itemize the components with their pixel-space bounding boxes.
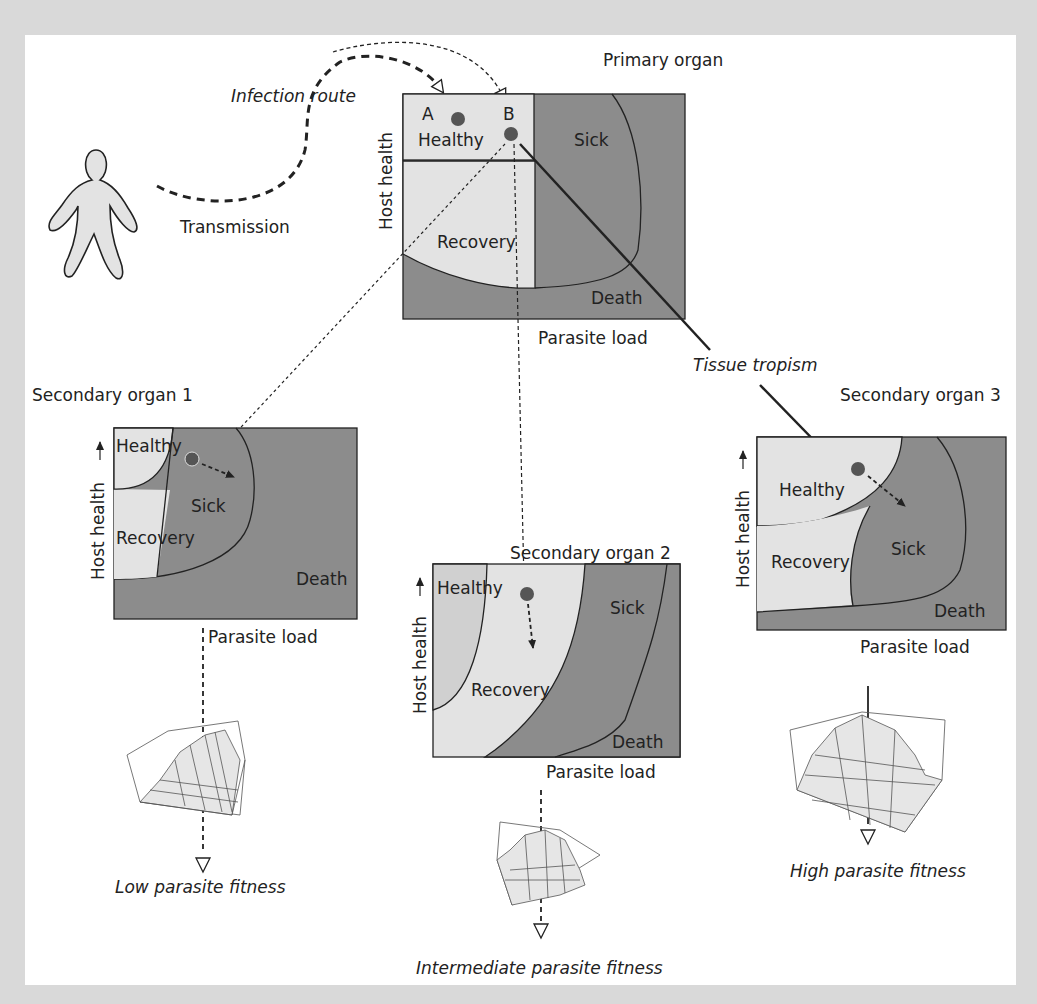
primary-region-healthy: Healthy	[418, 130, 484, 150]
infection-route-label: Infection route	[231, 86, 356, 106]
down-arrow-3	[861, 830, 875, 844]
person-icon	[49, 150, 137, 279]
down-arrow-2	[534, 924, 548, 938]
s2-region-death: Death	[612, 732, 663, 752]
s1-outcome-label: Low parasite fitness	[115, 877, 286, 897]
tissue-tropism-label: Tissue tropism	[693, 355, 817, 375]
primary-region-sick: Sick	[574, 130, 609, 150]
s2-region-recovery: Recovery	[471, 680, 550, 700]
secondary-organ-3-title: Secondary organ 3	[840, 385, 1001, 405]
s2-region-healthy: Healthy	[437, 578, 503, 598]
s3-outcome-label: High parasite fitness	[790, 861, 966, 881]
primary-region-death: Death	[591, 288, 642, 308]
s1-region-death: Death	[296, 569, 347, 589]
s3-region-death: Death	[934, 601, 985, 621]
fitness-surface-low	[127, 721, 245, 815]
s1-region-recovery: Recovery	[116, 528, 195, 548]
s2-outcome-label: Intermediate parasite fitness	[416, 958, 663, 978]
s2-x-axis-label: Parasite load	[546, 762, 656, 782]
s1-x-axis-label: Parasite load	[208, 627, 318, 647]
s1-y-axis-label: Host health	[88, 482, 108, 580]
point-b-label: B	[503, 104, 515, 124]
s2-y-axis-label: Host health	[410, 616, 430, 714]
down-arrow-1	[196, 858, 210, 872]
s3-region-sick: Sick	[891, 539, 926, 559]
s2-region-sick: Sick	[610, 598, 645, 618]
s3-region-healthy: Healthy	[779, 480, 845, 500]
secondary-organ-2-title: Secondary organ 2	[510, 543, 671, 563]
s1-region-sick: Sick	[191, 496, 226, 516]
s3-y-axis-label: Host health	[733, 490, 753, 588]
s3-region-recovery: Recovery	[771, 552, 850, 572]
point-a-label: A	[422, 104, 434, 124]
fitness-surface-intermediate	[497, 822, 600, 905]
primary-organ-title: Primary organ	[603, 50, 723, 70]
transmission-path	[157, 56, 440, 201]
primary-x-axis-label: Parasite load	[538, 328, 648, 348]
primary-region-recovery: Recovery	[437, 232, 516, 252]
s3-x-axis-label: Parasite load	[860, 637, 970, 657]
primary-y-axis-label: Host health	[376, 132, 396, 230]
transmission-label: Transmission	[180, 217, 290, 237]
secondary-organ-1-title: Secondary organ 1	[32, 385, 193, 405]
secondary-organ-1-chart	[114, 428, 357, 619]
primary-organ-chart	[403, 94, 685, 319]
fitness-surface-high	[790, 712, 945, 832]
s1-region-healthy: Healthy	[116, 436, 182, 456]
diagram-canvas	[0, 0, 1037, 1004]
